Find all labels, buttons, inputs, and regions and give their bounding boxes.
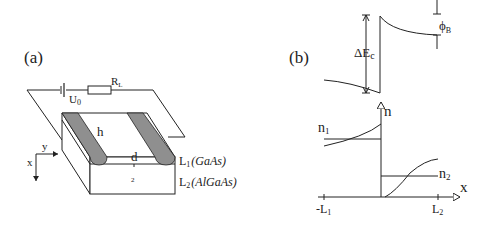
layer2-label: L2(AlGaAs) xyxy=(179,175,237,190)
n2-label: n2 xyxy=(439,166,451,182)
panel-a-label: (a) xyxy=(24,48,43,67)
panel-a: (a) U0 RL xyxy=(24,48,237,194)
region-label: 2 xyxy=(131,176,135,184)
axis-x-label: x xyxy=(27,156,33,168)
diagram-canvas: (a) U0 RL xyxy=(0,0,488,230)
resistor-icon xyxy=(88,86,111,94)
gap-label: d xyxy=(131,149,138,164)
source-label: U0 xyxy=(69,93,81,107)
panel-b-label: (b) xyxy=(289,48,309,67)
n-axis-label: n xyxy=(384,103,392,119)
coordinate-axes xyxy=(36,154,58,181)
x-axis-label: x xyxy=(460,179,468,195)
tick-right-label: L2 xyxy=(432,202,443,217)
delta-ec-label: ΔEc xyxy=(354,45,375,61)
panel-b: (b) ΔEc ϕB xyxy=(289,0,468,217)
resistor-label: RL xyxy=(111,75,123,89)
phi-b-label: ϕB xyxy=(439,18,451,35)
band-diagram xyxy=(324,0,441,93)
tick-left-label: -L1 xyxy=(316,202,331,217)
battery-icon xyxy=(61,83,64,97)
layer1-label: L1(GaAs) xyxy=(179,154,226,169)
n1-label: n1 xyxy=(318,120,330,136)
strip-label: h xyxy=(97,124,104,139)
axis-y-label: y xyxy=(42,140,48,152)
